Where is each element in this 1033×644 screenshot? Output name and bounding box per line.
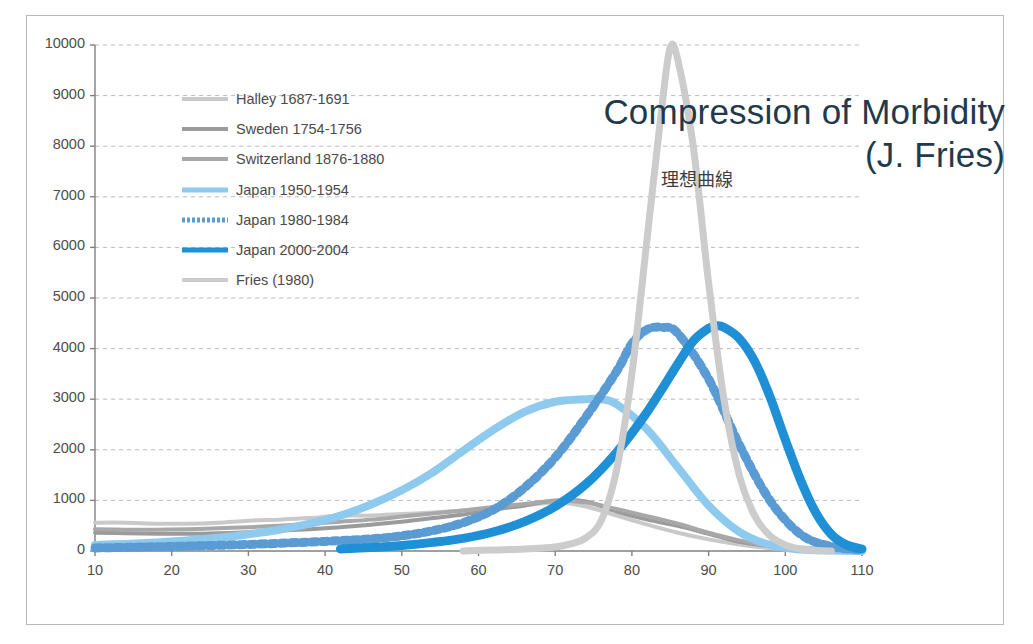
y-axis-tick-label: 1000	[25, 490, 85, 506]
page-title: Compression of Morbidity (J. Fries)	[485, 90, 1005, 177]
y-axis-tick-label: 8000	[25, 136, 85, 152]
legend-item: Switzerland 1876-1880	[182, 144, 442, 174]
y-axis-tick-label: 3000	[25, 389, 85, 405]
legend-swatch-icon	[182, 243, 228, 257]
y-axis-tick-label: 2000	[25, 440, 85, 456]
x-axis-tick-label: 110	[842, 562, 882, 578]
legend-item: Japan 1950-1954	[182, 175, 442, 205]
y-axis-tick-label: 6000	[25, 237, 85, 253]
legend-item: Japan 2000-2004	[182, 235, 442, 265]
y-axis-tick-label: 9000	[25, 86, 85, 102]
x-axis-tick-label: 20	[152, 562, 192, 578]
chart-legend: Halley 1687-1691Sweden 1754-1756Switzerl…	[182, 84, 442, 296]
legend-label: Japan 2000-2004	[236, 242, 349, 258]
y-axis-tick-label: 0	[25, 541, 85, 557]
legend-item: Halley 1687-1691	[182, 84, 442, 114]
y-axis-tick-label: 10000	[25, 35, 85, 51]
legend-item: Japan 1980-1984	[182, 205, 442, 235]
y-axis-tick-label: 4000	[25, 339, 85, 355]
legend-item: Fries (1980)	[182, 265, 442, 295]
legend-label: Japan 1980-1984	[236, 212, 349, 228]
legend-swatch-icon	[182, 213, 228, 227]
legend-label: Sweden 1754-1756	[236, 121, 362, 137]
legend-swatch-icon	[182, 122, 228, 136]
x-axis-tick-label: 70	[535, 562, 575, 578]
x-axis-tick-label: 40	[305, 562, 345, 578]
x-axis-tick-label: 100	[765, 562, 805, 578]
legend-label: Switzerland 1876-1880	[236, 151, 384, 167]
x-axis-tick-label: 30	[228, 562, 268, 578]
y-axis-tick-label: 7000	[25, 187, 85, 203]
legend-swatch-icon	[182, 273, 228, 287]
legend-item: Sweden 1754-1756	[182, 114, 442, 144]
x-axis-tick-label: 10	[75, 562, 115, 578]
legend-label: Fries (1980)	[236, 272, 314, 288]
x-axis-tick-label: 80	[612, 562, 652, 578]
x-axis-tick-label: 50	[382, 562, 422, 578]
legend-swatch-icon	[182, 92, 228, 106]
x-axis-tick-label: 90	[689, 562, 729, 578]
legend-label: Japan 1950-1954	[236, 182, 349, 198]
slide-canvas: 1000090008000700060005000400030002000100…	[0, 0, 1033, 644]
y-axis-tick-label: 5000	[25, 288, 85, 304]
x-axis-tick-label: 60	[459, 562, 499, 578]
legend-swatch-icon	[182, 183, 228, 197]
legend-label: Halley 1687-1691	[236, 91, 350, 107]
title-line-1: Compression of Morbidity	[485, 90, 1005, 133]
title-line-2: (J. Fries)	[485, 133, 1005, 176]
ideal-curve-annotation: 理想曲線	[661, 165, 733, 191]
legend-swatch-icon	[182, 152, 228, 166]
